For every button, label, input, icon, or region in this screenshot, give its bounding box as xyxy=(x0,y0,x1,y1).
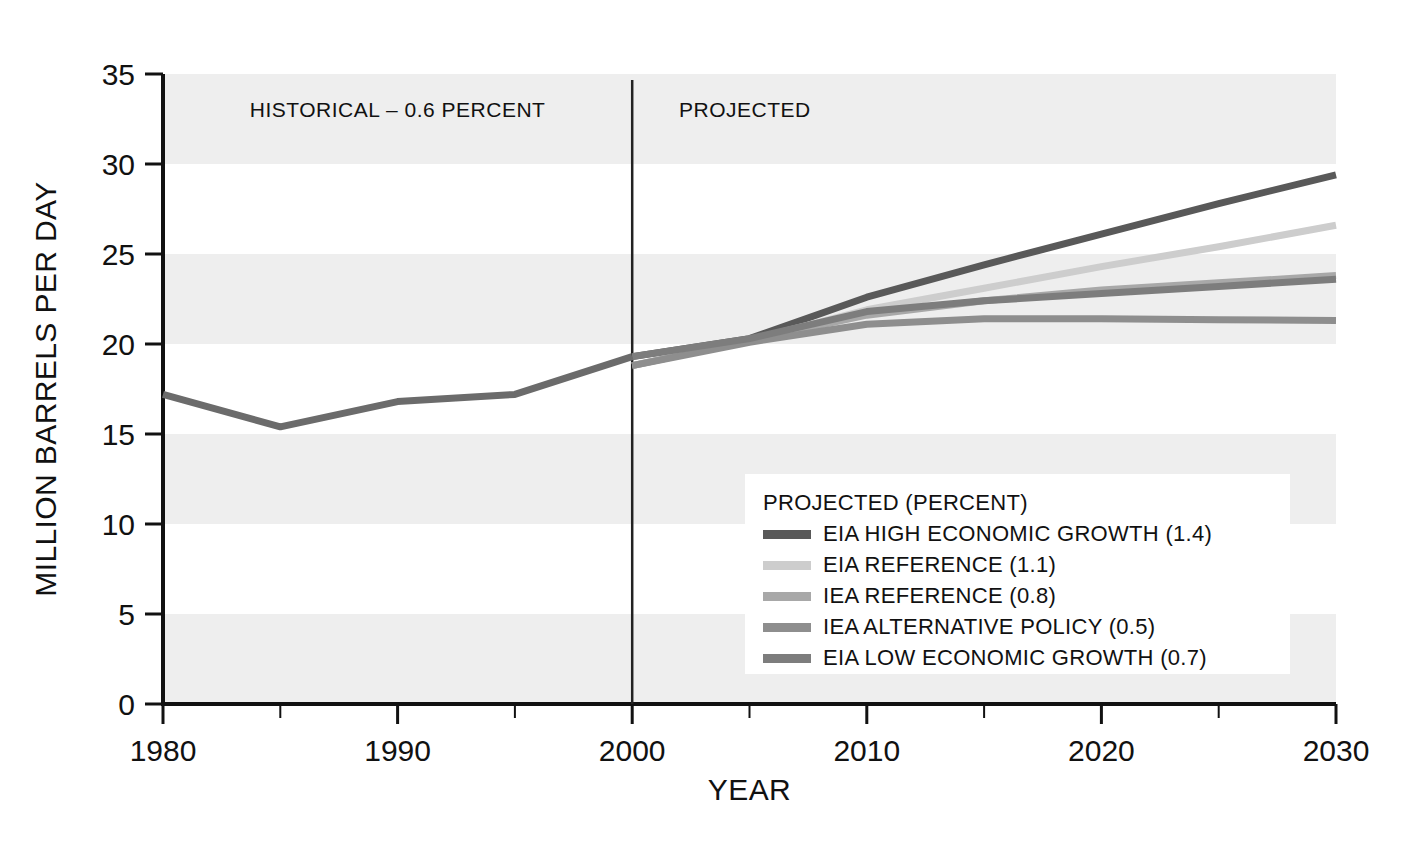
legend-swatch xyxy=(763,654,811,663)
x-tick-label: 2020 xyxy=(1068,734,1135,767)
y-tick-label: 5 xyxy=(118,598,135,631)
y-tick-label: 10 xyxy=(102,508,135,541)
legend-swatch xyxy=(763,530,811,539)
legend-label: IEA ALTERNATIVE POLICY (0.5) xyxy=(823,614,1155,639)
legend-label: IEA REFERENCE (0.8) xyxy=(823,583,1056,608)
legend-title: PROJECTED (PERCENT) xyxy=(763,490,1028,515)
x-tick-label: 2000 xyxy=(599,734,666,767)
x-tick-label: 1980 xyxy=(130,734,197,767)
legend-swatch xyxy=(763,592,811,601)
y-tick-label: 30 xyxy=(102,148,135,181)
y-tick-label: 20 xyxy=(102,328,135,361)
line-chart: 05101520253035 198019902000201020202030 … xyxy=(0,0,1416,845)
annotation-projected: PROJECTED xyxy=(679,98,811,121)
annotation-historical: HISTORICAL – 0.6 PERCENT xyxy=(250,98,546,121)
chart-container: 05101520253035 198019902000201020202030 … xyxy=(0,0,1416,845)
legend: PROJECTED (PERCENT)EIA HIGH ECONOMIC GRO… xyxy=(745,474,1290,674)
y-axis-title: MILLION BARRELS PER DAY xyxy=(29,181,62,596)
legend-swatch xyxy=(763,623,811,632)
y-tick-label: 0 xyxy=(118,688,135,721)
x-tick-label: 2010 xyxy=(833,734,900,767)
legend-swatch xyxy=(763,561,811,570)
legend-label: EIA HIGH ECONOMIC GROWTH (1.4) xyxy=(823,521,1212,546)
legend-label: EIA LOW ECONOMIC GROWTH (0.7) xyxy=(823,645,1207,670)
x-tick-label: 2030 xyxy=(1303,734,1370,767)
y-tick-label: 25 xyxy=(102,238,135,271)
x-axis-title: YEAR xyxy=(708,773,791,806)
x-tick-label: 1990 xyxy=(364,734,431,767)
legend-label: EIA REFERENCE (1.1) xyxy=(823,552,1056,577)
period-annotations: HISTORICAL – 0.6 PERCENTPROJECTED xyxy=(250,98,811,121)
grid-band xyxy=(163,254,1336,344)
y-tick-label: 15 xyxy=(102,418,135,451)
y-tick-label: 35 xyxy=(102,58,135,91)
